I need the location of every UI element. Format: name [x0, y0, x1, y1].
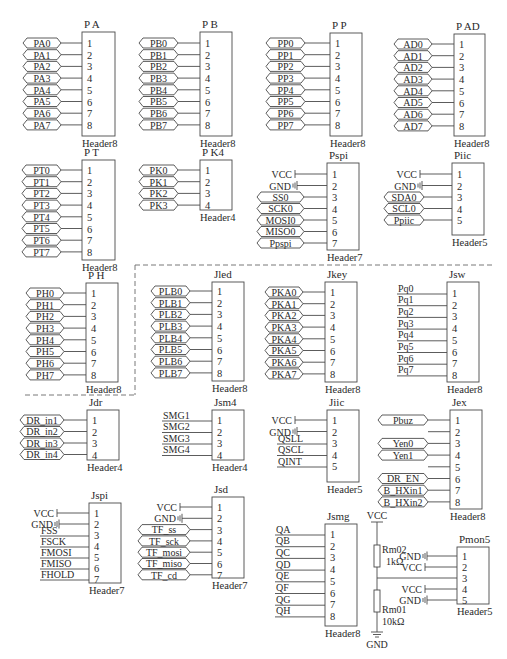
connector-jsmg[interactable]: JsmgHeader81QA2QB3QC4QD5QE6QF7QG8QH	[275, 510, 361, 639]
connector-pk4[interactable]: P K4Header41PK02PK13PK24PK3	[139, 146, 236, 223]
pin-5[interactable]: 5	[428, 462, 460, 473]
pin-4[interactable]: 4SCL0	[384, 203, 463, 214]
pin-2[interactable]: 2DR_in2	[20, 426, 97, 437]
connector-jled[interactable]: JledHeader81PLB02PLB13PLB24PLB35PLB46PLB…	[151, 268, 248, 394]
pin-number: 2	[457, 181, 462, 192]
connector-pb[interactable]: P BHeader81PB02PB13PB24PB35PB46PB57PB68P…	[139, 18, 236, 149]
voltage-divider-circuit: VCCRm021kΩRm0110kΩGND	[366, 510, 406, 650]
pin-2[interactable]: 2PP1	[266, 50, 340, 61]
net-label: QA	[276, 524, 291, 535]
pin-4[interactable]: 4DR_in4	[20, 449, 98, 460]
pin-number: 2	[91, 300, 96, 311]
pin-2[interactable]: 2	[428, 427, 460, 438]
connector-jsw[interactable]: JswHeader81Pq02Pq13Pq24Pq35Pq46Pq57Pq68P…	[397, 268, 483, 395]
pin-3[interactable]: 3SS0	[257, 192, 337, 203]
pin-7[interactable]: 7TF_cd	[138, 570, 222, 581]
pin-3[interactable]: 3SDA0	[384, 192, 462, 203]
pin-5[interactable]: 5MOSI0	[257, 215, 337, 226]
pin-8[interactable]: 8B_HXin2	[378, 497, 460, 508]
part-type-label: Header4	[200, 212, 236, 223]
resistor-value: 1kΩ	[386, 556, 403, 567]
pin-6[interactable]: 6MISO0	[257, 226, 337, 237]
pin-number: 4	[87, 200, 93, 211]
connector-pad[interactable]: P ADHeader81AD02AD13AD24AD35AD46AD57AD68…	[394, 20, 490, 149]
net-label: SMG4	[163, 444, 190, 455]
pin-number: 8	[452, 370, 457, 381]
net-label: QSCL	[278, 444, 304, 455]
pin-7[interactable]: 7PP6	[266, 108, 340, 119]
pin-3[interactable]: 3DR_in3	[20, 438, 97, 449]
pin-number: 7	[332, 238, 337, 249]
net-label: QF	[276, 582, 289, 593]
net-label: DR_in2	[26, 426, 58, 437]
connector-pp[interactable]: P PHeader81PP02PP13PP24PP35PP46PP57PP68P…	[266, 19, 366, 149]
pin-number: 2	[217, 298, 222, 309]
pin-number: 6	[94, 563, 99, 574]
pin-1[interactable]: 1PP0	[266, 38, 340, 49]
connector-jsm4[interactable]: Jsm4Header41SMG12SMG23SMG34SMG4	[162, 396, 248, 473]
pin-1[interactable]: 1DR_in1	[20, 415, 97, 426]
pin-number: 8	[455, 497, 460, 508]
pin-number: 3	[217, 438, 222, 449]
connector-jex[interactable]: JexHeader81Pbuz23Yen04Yen156DR_EN7B_HXin…	[378, 396, 486, 522]
pin-3[interactable]: 3PP2	[266, 61, 340, 72]
pin-4[interactable]: 4TF_sck	[138, 536, 223, 547]
pin-number: 1	[332, 415, 337, 426]
net-label: PP3	[277, 73, 293, 84]
power-label: VCC	[271, 415, 292, 426]
pin-number: 2	[217, 513, 222, 524]
net-label: MISO0	[265, 226, 295, 237]
pin-3[interactable]: 3TF_ss	[138, 524, 222, 535]
pin-5[interactable]: 5Ppiic	[384, 215, 462, 226]
pin-number: 4	[205, 200, 211, 211]
pin-8[interactable]: 8PP7	[266, 120, 340, 131]
resistor-rm01-icon[interactable]	[374, 590, 380, 612]
pin-7[interactable]: 7Ppspi	[257, 238, 337, 249]
pin-number: 3	[217, 309, 222, 320]
pin-number: 1	[217, 415, 222, 426]
part-type-label: Header7	[327, 252, 363, 263]
connector-pa[interactable]: P AHeader81PA02PA13PA24PA35PA46PA57PA68P…	[23, 18, 118, 149]
pin-7[interactable]: 7B_HXin1	[378, 485, 460, 496]
connector-jdr[interactable]: JdrHeader41DR_in12DR_in23DR_in34DR_in4	[20, 396, 123, 473]
designator-label: P P	[332, 19, 347, 31]
pin-number: 4	[452, 323, 458, 334]
pin-number: 3	[87, 61, 92, 72]
pin-5[interactable]: 5PP4	[266, 85, 340, 96]
resistor-rm02-icon[interactable]	[374, 545, 380, 567]
part-type-label: Header8	[447, 384, 483, 395]
pin-4[interactable]: 4SCK0	[257, 203, 338, 214]
net-label: QSLL	[278, 433, 303, 444]
net-label: PB3	[150, 73, 167, 84]
net-label: SS0	[272, 192, 288, 203]
pin-3[interactable]: 3	[377, 573, 467, 584]
connector-jiic[interactable]: JiicHeader51VCC2GND3QSLL4QSCL5QINT	[269, 396, 362, 495]
net-label: AD0	[403, 39, 422, 50]
designator-label: P T	[84, 146, 99, 158]
pin-number: 3	[457, 192, 462, 203]
pin-1[interactable]: 1Pbuz	[378, 415, 460, 426]
pin-number: 8	[335, 120, 340, 131]
connector-jsd[interactable]: JsdHeader71VCC2GND3TF_ss4TF_sck5TF_mosi6…	[138, 483, 248, 591]
net-label: AD7	[403, 121, 422, 132]
pin-number: 3	[92, 438, 97, 449]
net-label: AD1	[403, 51, 422, 62]
connector-piic[interactable]: PiicHeader51VCC2GND3SDA04SCL05Ppiic	[384, 149, 488, 248]
connector-pt[interactable]: P THeader81PT02PT13PT24PT35PT46PT57PT68P…	[22, 146, 118, 273]
net-label: PA0	[34, 38, 51, 49]
pin-number: 6	[330, 346, 335, 357]
connector-ph[interactable]: P HHeader81PH02PH13PH24PH35PH46PH57PH68P…	[26, 269, 122, 395]
pin-6[interactable]: 6DR_EN	[378, 473, 460, 484]
connector-pspi[interactable]: PspiHeader71VCC2GND3SS04SCK05MOSI06MISO0…	[257, 149, 363, 263]
resistor-value: 10kΩ	[382, 616, 404, 627]
pin-6[interactable]: 6TF_miso	[138, 558, 222, 569]
pin-4[interactable]: 4Yen1	[378, 450, 461, 461]
pin-6[interactable]: 6PP5	[266, 96, 340, 107]
pin-3[interactable]: 3Yen0	[378, 438, 460, 449]
pin-number: 1	[217, 286, 222, 297]
pin-5[interactable]: 5TF_mosi	[138, 547, 222, 558]
connector-jkey[interactable]: JkeyHeader81PKA02PKA13PKA24PKA35PKA46PKA…	[265, 268, 361, 395]
connector-jspi[interactable]: JspiHeader71VCC2GND3FSS4FSCK5FMOSI6FMISO…	[31, 489, 124, 596]
pin-number: 3	[332, 438, 337, 449]
part-type-label: Header7	[212, 580, 248, 591]
